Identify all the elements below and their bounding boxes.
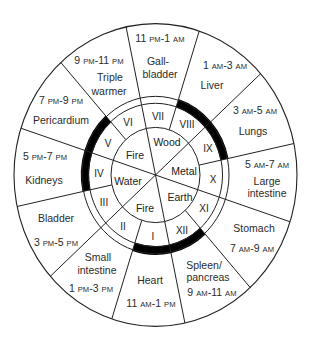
time-end: 7 <box>47 150 53 162</box>
organ-name-lungs: Lungs <box>239 126 268 137</box>
element-label-fire-upper: Fire <box>126 150 144 161</box>
organ-name-gallbladder: Gall- <box>147 56 169 67</box>
time-start-period: AM <box>212 62 224 71</box>
time-start-period: PM <box>78 285 90 294</box>
organ-name-kidneys: Kidneys <box>25 175 62 186</box>
meridian-numeral-pericardium: V <box>105 139 112 149</box>
meridian-numeral-stomach: XI <box>199 204 208 214</box>
time-start: 9 <box>74 54 80 66</box>
time-start: 3 <box>34 236 40 248</box>
time-start: 1 <box>69 282 75 294</box>
time-range-small-intestine: 1 PM-3 PM <box>69 283 113 294</box>
time-end-period: AM <box>225 289 237 298</box>
time-start: 7 <box>39 94 45 106</box>
organ-name-small-intestine: intestine <box>77 265 116 276</box>
time-range-liver: 1 AM-3 AM <box>203 60 247 71</box>
time-range-bladder: 3 PM-5 PM <box>34 237 78 248</box>
time-range-large-intestine: 5 AM-7 AM <box>245 159 289 170</box>
time-start: 11 <box>126 297 137 309</box>
time-start-period: PM <box>149 35 161 44</box>
time-start-period: PM <box>43 239 55 248</box>
time-range-lungs: 3 AM-5 AM <box>233 105 277 116</box>
meridian-numeral-large-intestine: X <box>210 175 217 185</box>
meridian-numeral-liver: VIII <box>179 120 194 130</box>
time-start: 9 <box>187 286 193 298</box>
time-start-period: PM <box>32 153 44 162</box>
time-range-pericardium: 7 PM-9 PM <box>39 95 83 106</box>
time-start-period: AM <box>239 245 251 254</box>
organ-name-small-intestine: Small <box>85 252 111 263</box>
time-start: 11 <box>135 32 146 44</box>
organ-name-bladder: Bladder <box>38 213 74 224</box>
time-end: 9 <box>63 94 69 106</box>
time-range-stomach: 7 AM-9 AM <box>230 243 274 254</box>
time-start: 3 <box>233 104 239 116</box>
time-range-gallbladder: 11 PM-1 AM <box>135 33 184 44</box>
element-label-metal: Metal <box>171 166 197 177</box>
time-start-period: AM <box>196 289 208 298</box>
time-end-period: PM <box>112 57 124 66</box>
organ-name-pericardium: Pericardium <box>33 115 89 126</box>
time-end: 11 <box>98 54 109 66</box>
organ-name-spleen-pancreas: Spleen/ <box>186 260 222 271</box>
organ-name-gallbladder: bladder <box>142 69 177 80</box>
time-end-period: PM <box>67 239 79 248</box>
element-label-fire-lower: Fire <box>136 203 154 214</box>
time-end-period: PM <box>164 300 176 309</box>
meridian-numeral-triple-warmer: VI <box>123 118 132 128</box>
time-end-period: AM <box>263 245 275 254</box>
time-end-period: AM <box>236 62 248 71</box>
organ-name-triple-warmer: warmer <box>91 86 126 97</box>
time-end-period: AM <box>278 161 290 170</box>
time-end: 1 <box>164 32 170 44</box>
highlight-arc <box>81 116 111 192</box>
time-end: 3 <box>93 282 99 294</box>
element-label-water: Water <box>114 176 142 187</box>
organ-name-liver: Liver <box>201 80 224 91</box>
time-end-period: PM <box>102 285 114 294</box>
time-start-period: AM <box>140 300 152 309</box>
time-start-period: AM <box>242 107 254 116</box>
meridian-numeral-small-intestine: II <box>120 222 126 232</box>
meridian-numeral-bladder: III <box>100 198 108 208</box>
meridian-numeral-heart: I <box>152 232 155 242</box>
sector-line <box>17 185 112 207</box>
time-end: 9 <box>254 242 260 254</box>
organ-name-large-intestine: intestine <box>247 188 286 199</box>
time-start: 5 <box>245 158 251 170</box>
time-end: 7 <box>269 158 275 170</box>
time-start: 7 <box>230 242 236 254</box>
time-end: 3 <box>227 59 233 71</box>
time-start: 5 <box>23 150 29 162</box>
time-start-period: AM <box>254 161 266 170</box>
meridian-clock-diagram: 11 PM-1 AMGall-bladderVII1 AM-3 AMLiverV… <box>0 0 309 341</box>
element-label-earth: Earth <box>167 192 192 203</box>
organ-name-triple-warmer: Triple <box>97 72 123 83</box>
meridian-numeral-lungs: IX <box>203 144 212 154</box>
time-end-period: AM <box>266 107 278 116</box>
time-end: 5 <box>257 104 263 116</box>
time-range-kidneys: 5 PM-7 PM <box>23 151 67 162</box>
meridian-numeral-spleen-pancreas: XII <box>176 226 188 236</box>
time-end-period: PM <box>72 97 84 106</box>
time-start: 1 <box>203 59 209 71</box>
time-range-heart: 11 AM-1 PM <box>126 298 175 309</box>
time-end-period: PM <box>56 153 68 162</box>
organ-name-stomach: Stomach <box>233 223 274 234</box>
time-range-triple-warmer: 9 PM-11 PM <box>74 55 123 66</box>
time-range-spleen-pancreas: 9 AM-11 AM <box>187 287 236 298</box>
meridian-numeral-kidneys: IV <box>94 169 103 179</box>
time-end: 5 <box>58 236 64 248</box>
time-end: 11 <box>211 286 222 298</box>
time-start-period: PM <box>83 57 95 66</box>
organ-name-heart: Heart <box>137 275 163 286</box>
time-end-period: AM <box>173 35 185 44</box>
time-end: 1 <box>155 297 161 309</box>
element-label-wood: Wood <box>153 137 180 148</box>
organ-name-spleen-pancreas: pancreas <box>186 272 229 283</box>
wheel-graphic <box>0 0 309 341</box>
time-start-period: PM <box>48 97 60 106</box>
organ-name-large-intestine: Large <box>254 176 281 187</box>
meridian-numeral-gallbladder: VII <box>152 112 164 122</box>
